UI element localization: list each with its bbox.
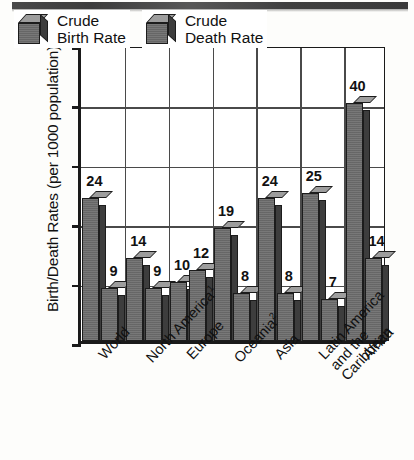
bar-birth-rate: 24 xyxy=(82,198,99,341)
bar-birth-rate: 14 xyxy=(126,258,143,341)
bar-top-face xyxy=(265,191,289,198)
bar-chart-figure: Birth/Death Rates (per 1000 population) … xyxy=(0,0,414,460)
bar-top-face xyxy=(353,96,377,103)
bar-front-face xyxy=(82,198,99,341)
bar-group: 257 xyxy=(300,48,344,341)
bar-value-label: 14 xyxy=(130,233,146,249)
bar-group: 149 xyxy=(125,48,169,341)
bar-value-label: 8 xyxy=(241,268,249,284)
y-tick-mark xyxy=(72,285,81,288)
cube-side-face xyxy=(40,14,48,42)
bar-group: 198 xyxy=(213,48,257,341)
legend-item: CrudeDeath Rate xyxy=(142,10,267,48)
bar-top-face xyxy=(309,186,333,193)
bar-top-face xyxy=(221,221,245,228)
bar-value-label: 25 xyxy=(306,168,322,184)
bar-value-label: 8 xyxy=(285,268,293,284)
bar-value-label: 14 xyxy=(368,233,384,249)
cube-front-face xyxy=(18,23,40,44)
bar-front-face xyxy=(302,193,319,342)
cube-icon xyxy=(18,14,48,44)
bar-value-label: 40 xyxy=(349,78,365,94)
y-axis-title: Birth/Death Rates (per 1000 population) xyxy=(44,14,62,344)
bar-value-label: 24 xyxy=(86,173,102,189)
legend-label: CrudeBirth Rate xyxy=(57,12,126,46)
cube-front-face xyxy=(146,23,168,44)
bar-group: 249 xyxy=(81,48,125,341)
bar-front-face xyxy=(126,258,143,341)
bar-value-label: 9 xyxy=(153,263,161,279)
y-tick-mark xyxy=(72,166,81,169)
bar-birth-rate: 25 xyxy=(302,193,319,342)
cube-side-face xyxy=(168,14,176,42)
bar-value-label: 9 xyxy=(109,263,117,279)
bar-value-label: 7 xyxy=(329,274,337,290)
bar-value-label: 24 xyxy=(262,173,278,189)
plot-area: 0102030405024914910121982482574014 xyxy=(78,47,385,344)
cube-icon xyxy=(146,14,176,44)
bar-value-label: 10 xyxy=(174,257,190,273)
legend-item: CrudeBirth Rate xyxy=(14,10,130,48)
bar-top-face xyxy=(133,251,157,258)
chart-legend: CrudeBirth RateCrudeDeath Rate xyxy=(14,10,267,48)
bar-value-label: 19 xyxy=(218,203,234,219)
y-tick-mark xyxy=(72,225,81,228)
y-tick-mark xyxy=(72,344,81,347)
bar-top-face xyxy=(372,251,396,258)
bar-group: 248 xyxy=(256,48,300,341)
bar-top-face xyxy=(89,191,113,198)
legend-label: CrudeDeath Rate xyxy=(185,12,263,46)
bar-value-label: 12 xyxy=(193,245,209,261)
y-tick-mark xyxy=(72,106,81,109)
